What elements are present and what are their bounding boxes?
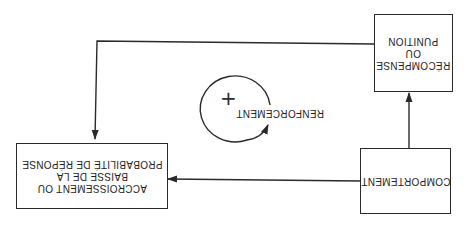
consequence-line-3: PUNITION bbox=[376, 35, 450, 47]
behavior-label: COMPORTEMENT bbox=[361, 175, 451, 187]
behavior-line-1: COMPORTEMENT bbox=[361, 175, 451, 187]
plus-sign-icon: + bbox=[220, 88, 237, 108]
consequence-line-2: OU bbox=[376, 47, 450, 59]
edge-behavior-to-outcome bbox=[168, 179, 361, 181]
consequence-line-1: RÉCOMPENSE bbox=[376, 59, 450, 71]
consequence-box: RÉCOMPENSE OU PUNITION bbox=[374, 14, 453, 92]
outcome-label: ACCROISSEMENT OU BAISSE DE LA PROBABILIT… bbox=[22, 158, 163, 194]
outcome-line-3: PROBABILITÉ DE RÉPONSE bbox=[22, 158, 163, 170]
reinforcement-diagram: + RENFORCEMENT RÉCOMPENSE OU PUNITION CO… bbox=[0, 0, 468, 231]
consequence-label: RÉCOMPENSE OU PUNITION bbox=[376, 35, 450, 71]
outcome-line-2: BAISSE DE LA bbox=[22, 170, 163, 182]
behavior-box: COMPORTEMENT bbox=[360, 148, 451, 214]
outcome-box: ACCROISSEMENT OU BAISSE DE LA PROBABILIT… bbox=[16, 143, 168, 209]
reinforcement-label: RENFORCEMENT bbox=[236, 108, 324, 119]
outcome-line-1: ACCROISSEMENT OU bbox=[22, 182, 163, 194]
